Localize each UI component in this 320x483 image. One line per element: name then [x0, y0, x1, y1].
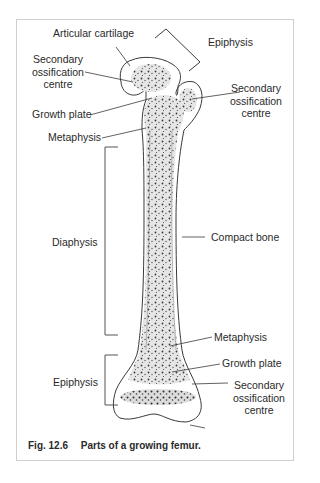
label-articular-cartilage: Articular cartilage — [53, 27, 134, 40]
label-diaphysis: Diaphysis — [52, 236, 98, 249]
condyle-ossification-centre — [120, 389, 196, 405]
label-compact-bone: Compact bone — [211, 231, 279, 244]
label-growth-plate-top: Growth plate — [32, 108, 92, 121]
head-ossification-centre — [131, 64, 171, 92]
label-secondary-ossification-bottom: Secondary ossification centre — [228, 379, 290, 417]
label-epiphysis-bottom: Epiphysis — [53, 376, 98, 389]
label-metaphysis-top: Metaphysis — [48, 131, 101, 144]
caption-number: Fig. 12.6 — [28, 440, 78, 451]
label-metaphysis-bottom: Metaphysis — [214, 331, 267, 344]
label-growth-plate-bottom: Growth plate — [222, 357, 282, 370]
figure-caption: Fig. 12.6 Parts of a growing femur. — [28, 440, 201, 451]
label-secondary-ossification-right: Secondary ossification centre — [225, 82, 287, 120]
diaphysis-bracket — [105, 147, 118, 335]
label-secondary-ossification-left: Secondary ossification centre — [30, 53, 86, 91]
caption-text: Parts of a growing femur. — [81, 440, 201, 451]
label-epiphysis-top: Epiphysis — [208, 36, 253, 49]
